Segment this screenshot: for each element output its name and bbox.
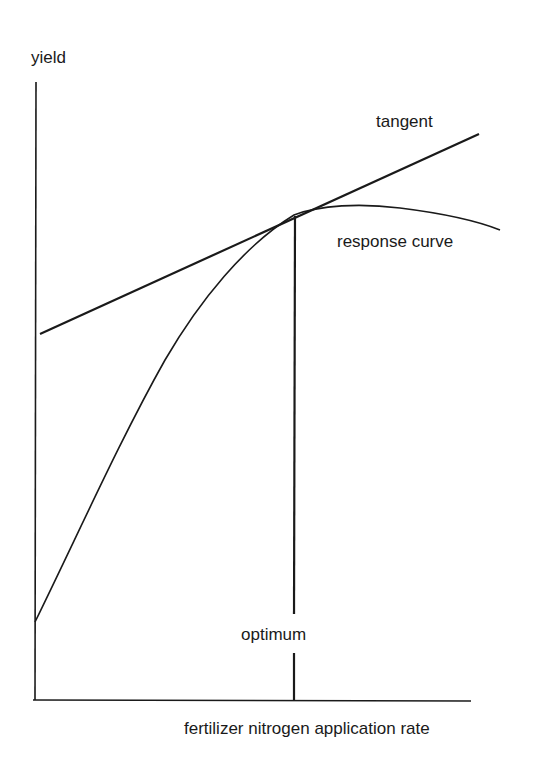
response-curve: [35, 205, 500, 622]
x-axis-label: fertilizer nitrogen application rate: [184, 719, 430, 738]
x-axis: [33, 700, 471, 701]
yield-response-diagram: yield tangent response curve optimum fer…: [0, 0, 549, 767]
tangent-label: tangent: [376, 112, 433, 131]
y-axis: [35, 82, 36, 700]
y-axis-label: yield: [31, 48, 66, 67]
optimum-label: optimum: [241, 625, 306, 644]
optimum-line-upper: [294, 216, 295, 614]
response-curve-label: response curve: [337, 232, 453, 251]
